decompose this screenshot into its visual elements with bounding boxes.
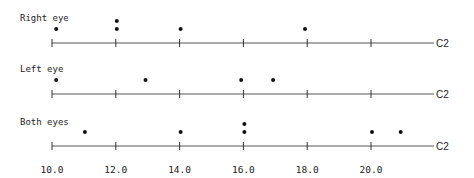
data-point (54, 27, 58, 31)
panel-label: Both eyes (20, 117, 69, 127)
axis-variable-label: C2 (436, 89, 449, 100)
data-point (303, 27, 307, 31)
axis-variable-label: C2 (436, 38, 449, 49)
x-tick-label: 20.0 (360, 164, 383, 175)
data-point (399, 130, 403, 134)
data-point (179, 130, 183, 134)
axis-variable-label: C2 (436, 141, 449, 152)
dotplot-chart: Right eyeC2Left eyeC2Both eyesC210.012.0… (0, 0, 474, 178)
x-tick-label: 10.0 (41, 164, 64, 175)
data-point (144, 78, 148, 82)
x-tick-label: 18.0 (296, 164, 319, 175)
data-point (54, 78, 58, 82)
data-point (370, 130, 374, 134)
x-tick-label: 16.0 (232, 164, 255, 175)
data-point (179, 27, 183, 31)
x-tick-label: 14.0 (168, 164, 191, 175)
data-point (271, 78, 275, 82)
data-point (115, 19, 119, 23)
data-point (239, 78, 243, 82)
panel-label: Right eye (20, 13, 69, 23)
x-tick-label: 12.0 (104, 164, 127, 175)
panel-label: Left eye (20, 64, 63, 74)
data-point (83, 130, 87, 134)
data-point (242, 122, 246, 126)
data-point (242, 130, 246, 134)
data-point (115, 27, 119, 31)
